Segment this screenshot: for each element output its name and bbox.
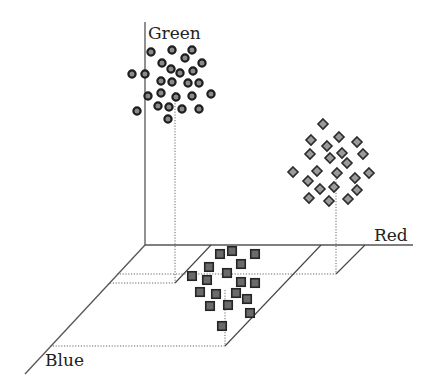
diagram-canvas: Green Red Blue [0, 0, 434, 391]
circle-marker [158, 59, 165, 66]
square-marker [223, 269, 232, 278]
diamond-marker [343, 194, 353, 204]
green-axis-label: Green [148, 23, 201, 43]
red-cluster [288, 119, 374, 206]
diamond-marker [288, 167, 298, 177]
square-marker [237, 278, 246, 287]
diamond-marker [332, 168, 342, 178]
circle-marker [157, 89, 164, 96]
circle-marker [133, 107, 140, 114]
diamond-marker [304, 193, 314, 203]
square-marker [251, 250, 260, 259]
diamond-marker [358, 149, 368, 159]
diamond-marker [329, 182, 339, 192]
circle-marker [168, 46, 175, 53]
diamond-marker [305, 149, 315, 159]
green-cluster [128, 46, 214, 122]
circle-marker [189, 67, 196, 74]
circle-marker [165, 103, 172, 110]
red-red-projection [336, 245, 365, 274]
blue-cluster [188, 247, 260, 331]
color-space-diagram: Green Red Blue [0, 0, 434, 391]
circle-marker [195, 79, 202, 86]
circle-marker [157, 77, 164, 84]
circle-marker [195, 105, 202, 112]
diamond-marker [318, 119, 328, 129]
circle-marker [198, 59, 205, 66]
square-marker [203, 276, 212, 285]
circle-marker [167, 65, 174, 72]
diamond-marker [315, 184, 325, 194]
diamond-marker [322, 141, 332, 151]
square-marker [228, 247, 237, 256]
circle-marker [154, 102, 161, 109]
circle-marker [181, 54, 188, 61]
square-marker [205, 263, 214, 272]
square-marker [206, 302, 215, 311]
diamond-marker [352, 137, 362, 147]
diamond-marker [350, 173, 360, 183]
diamond-marker [325, 153, 335, 163]
circle-marker [178, 105, 185, 112]
diamond-marker [364, 168, 374, 178]
circle-marker [128, 70, 135, 77]
diamond-marker [324, 196, 334, 206]
square-marker [216, 250, 225, 259]
circle-marker [188, 92, 195, 99]
diamond-marker [303, 176, 313, 186]
circle-marker [147, 48, 154, 55]
blue-axis [25, 245, 145, 374]
square-marker [243, 295, 252, 304]
diamond-marker [306, 135, 316, 145]
square-marker [212, 290, 221, 299]
square-marker [196, 288, 205, 297]
diamond-marker [342, 158, 352, 168]
diamond-marker [334, 132, 344, 142]
circle-marker [176, 69, 183, 76]
square-marker [224, 301, 233, 310]
circle-marker [184, 79, 191, 86]
square-marker [251, 279, 260, 288]
square-marker [246, 309, 255, 318]
circle-marker [141, 70, 148, 77]
circle-marker [172, 93, 179, 100]
circle-marker [188, 46, 195, 53]
blue-axis-label: Blue [45, 350, 84, 370]
square-marker [232, 289, 241, 298]
diamond-marker [312, 166, 322, 176]
circle-marker [168, 78, 175, 85]
square-marker [237, 260, 246, 269]
circle-marker [207, 90, 214, 97]
square-marker [218, 322, 227, 331]
red-axis-label: Red [374, 225, 408, 245]
square-marker [188, 272, 197, 281]
diamond-marker [352, 185, 362, 195]
diamond-marker [337, 148, 347, 158]
circle-marker [144, 92, 151, 99]
circle-marker [164, 115, 171, 122]
